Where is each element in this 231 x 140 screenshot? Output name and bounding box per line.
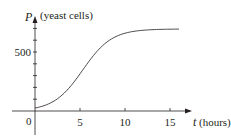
origin-label: 0 [26,115,32,127]
y-axis-var-label: P [24,10,33,24]
x-tick-label: 10 [120,116,132,128]
y-axis-arrow-icon [33,16,38,23]
x-axis-arrow-icon [185,109,192,114]
population-curve [35,29,179,108]
y-axis-unit-label: (yeast cells) [40,9,93,22]
x-tick-label: 15 [165,116,177,128]
x-axis-var-label: t [193,115,197,129]
x-tick-label: 5 [77,116,83,128]
logistic-growth-chart: 51015 500 P (yeast cells) t (hours) 0 [0,0,231,140]
y-ticks: 500 [15,28,38,99]
x-axis-unit-label: (hours) [199,116,231,129]
y-tick-label: 500 [15,46,32,58]
